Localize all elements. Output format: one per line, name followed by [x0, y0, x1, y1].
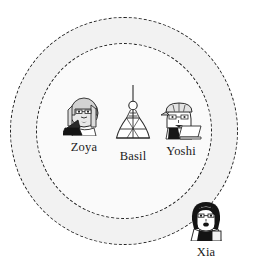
node-zoya-label: Zoya — [71, 141, 97, 154]
node-basil-label: Basil — [120, 150, 147, 163]
node-xia-label: Xia — [197, 246, 216, 259]
node-yoshi[interactable]: Yoshi — [160, 100, 202, 158]
node-xia[interactable]: Xia — [186, 199, 226, 259]
diagram-canvas: Zoya Basil — [0, 0, 265, 267]
broadcast-tower-icon — [113, 85, 153, 149]
person-with-cap-and-laptop-icon — [160, 100, 202, 144]
person-with-laptop-icon — [63, 96, 105, 140]
node-yoshi-label: Yoshi — [166, 145, 196, 158]
node-basil[interactable]: Basil — [113, 85, 153, 163]
person-dark-bob-hair-icon — [186, 199, 226, 245]
node-zoya[interactable]: Zoya — [63, 96, 105, 154]
